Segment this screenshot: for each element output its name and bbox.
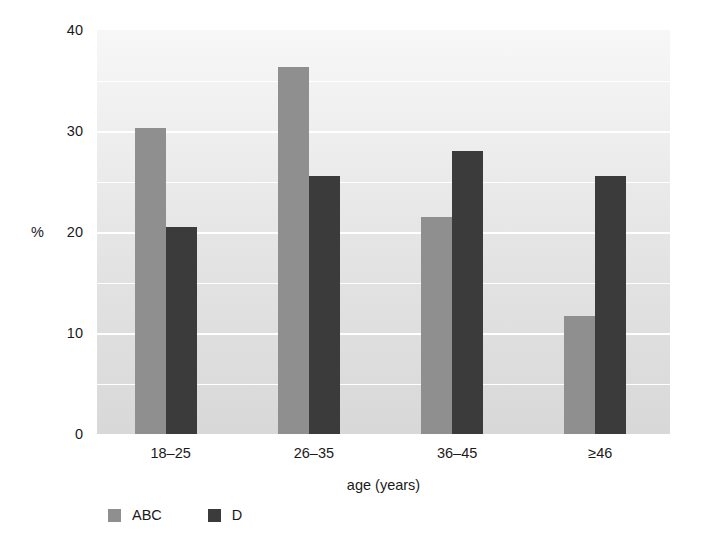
bars-layer	[97, 30, 670, 434]
legend-swatch-icon	[208, 509, 221, 522]
x-axis-title: age (years)	[97, 478, 670, 493]
bar-d-4	[595, 176, 626, 434]
y-tick-label: 30	[67, 124, 83, 139]
x-tick-label: 36–45	[437, 446, 477, 461]
bar-abc-2	[278, 67, 309, 434]
y-axis-title: %	[31, 225, 44, 240]
bar-d-2	[309, 176, 340, 434]
y-tick-label: 40	[67, 23, 83, 38]
bar-abc-3	[421, 217, 452, 434]
legend-swatch-icon	[108, 509, 121, 522]
legend-item-d[interactable]: D	[208, 508, 242, 523]
bar-d-3	[452, 151, 483, 434]
x-tick-label: 26–35	[294, 446, 334, 461]
chart-legend: ABCD	[108, 508, 242, 523]
bar-chart-figure: 010203040 % 18–2526–3536–45≥46 age (year…	[0, 0, 704, 554]
legend-label: ABC	[132, 508, 162, 523]
y-tick-label: 20	[67, 225, 83, 240]
bar-abc-1	[135, 128, 166, 434]
bar-abc-4	[564, 316, 595, 434]
y-axis: 010203040	[0, 0, 97, 464]
legend-item-abc[interactable]: ABC	[108, 508, 162, 523]
y-tick-label: 10	[67, 326, 83, 341]
plot-area	[97, 30, 670, 434]
bar-d-1	[166, 227, 197, 434]
x-axis: 18–2526–3536–45≥46	[97, 446, 670, 470]
x-tick-label: 18–25	[150, 446, 190, 461]
y-tick-label: 0	[75, 427, 83, 442]
legend-label: D	[232, 508, 242, 523]
x-tick-label: ≥46	[588, 446, 612, 461]
